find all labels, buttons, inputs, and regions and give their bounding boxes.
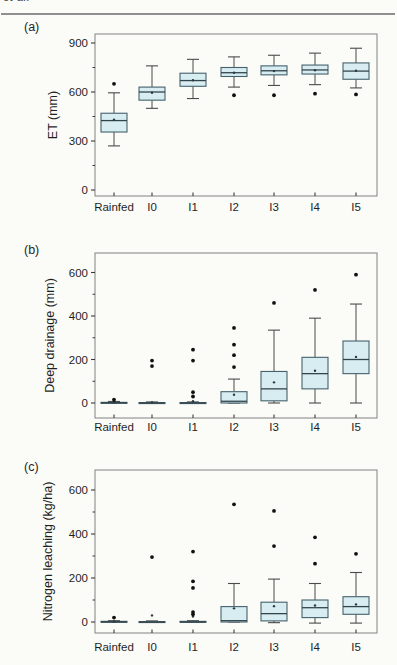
mean-marker [151,614,153,616]
y-tick-label: 400 [69,528,88,540]
mean-marker [192,79,194,81]
x-category-label: I2 [229,201,239,213]
mean-marker [192,400,194,402]
mean-marker [233,607,235,609]
outlier-point [272,544,276,548]
x-category-label: I4 [310,421,320,433]
outlier-point [313,288,317,292]
x-category-label: I1 [188,641,198,653]
outlier-point [191,579,195,583]
x-category-label: I5 [351,641,361,653]
outlier-point [232,353,236,357]
outlier-point [150,359,154,363]
figure-page: et al. 0300600900RainfedI0I1I2I3I4I5(a)E… [0,0,397,665]
box-b-I1 [180,348,206,404]
y-axis-title-c: Nitrogen leaching (kg/ha) [41,482,55,622]
y-tick-label: 600 [69,267,88,279]
x-category-label: I1 [188,201,198,213]
outlier-point [354,552,358,556]
box-b-I5 [343,273,369,403]
x-category-label: I3 [269,421,279,433]
y-tick-label: 300 [69,135,88,147]
mean-marker [113,119,115,121]
box-a-I0 [139,66,165,108]
iqr-box [261,371,287,400]
x-category-label: I2 [229,641,239,653]
x-category-label: I0 [147,641,157,653]
box-c-Rainfed [101,616,127,623]
x-category-label: I1 [188,421,198,433]
outlier-point [112,82,116,86]
outlier-point [191,395,195,399]
mean-marker [151,401,153,403]
box-b-I0 [139,359,165,404]
x-category-label: I3 [269,201,279,213]
box-c-I3 [261,509,287,623]
panel-a: 0300600900RainfedI0I1I2I3I4I5(a)ET (mm) [24,20,377,213]
x-category-label: I5 [351,201,361,213]
panel-label-a: (a) [24,20,39,34]
y-tick-label: 600 [69,484,88,496]
outlier-point [232,502,236,506]
box-c-I2 [221,502,247,622]
outlier-point [272,93,276,97]
box-a-Rainfed [101,82,127,146]
outlier-point [354,93,358,97]
mean-marker [233,72,235,74]
box-a-I5 [343,48,369,96]
y-tick-label: 900 [69,37,88,49]
mean-marker [314,69,316,71]
panel-b: 0200400600RainfedI0I1I2I3I4I5(b)Deep dra… [24,243,377,433]
x-category-label: Rainfed [94,641,134,653]
box-c-I0 [139,555,165,622]
box-b-I4 [302,288,328,403]
plot-frame [95,34,377,196]
mean-marker [355,356,357,358]
outlier-point [313,92,317,96]
outlier-point [191,586,195,590]
box-a-I1 [180,59,206,98]
outlier-point [313,562,317,566]
outlier-point [191,390,195,394]
outlier-point [150,555,154,559]
x-category-label: I0 [147,201,157,213]
outlier-point [191,610,195,614]
boxplot-figure-canvas: 0300600900RainfedI0I1I2I3I4I5(a)ET (mm)0… [0,0,397,665]
outlier-point [232,326,236,330]
mean-marker [355,70,357,72]
y-tick-label: 0 [82,616,88,628]
outlier-point [354,273,358,277]
outlier-point [112,616,116,620]
box-b-I2 [221,326,247,403]
x-category-label: Rainfed [94,201,134,213]
y-axis-title-a: ET (mm) [46,91,60,139]
outlier-point [232,93,236,97]
iqr-box [101,113,127,132]
y-tick-label: 200 [69,572,88,584]
box-c-I1 [180,550,206,623]
box-a-I4 [302,53,328,95]
x-category-label: Rainfed [94,421,134,433]
mean-marker [273,70,275,72]
outlier-point [232,365,236,369]
mean-marker [314,370,316,372]
x-category-label: I2 [229,421,239,433]
panel-c: 0200400600RainfedI0I1I2I3I4I5(c)Nitrogen… [24,460,377,653]
outlier-point [191,550,195,554]
y-axis-title-b: Deep drainage (mm) [43,278,57,393]
outlier-point [191,359,195,363]
box-a-I2 [221,57,247,97]
y-tick-label: 400 [69,310,88,322]
mean-marker [273,381,275,383]
panel-label-b: (b) [24,243,39,257]
y-tick-label: 0 [82,397,88,409]
outlier-point [272,301,276,305]
iqr-box [302,600,328,618]
outlier-point [232,343,236,347]
box-c-I4 [302,535,328,623]
box-b-Rainfed [101,398,127,404]
mean-marker [273,605,275,607]
outlier-point [272,509,276,513]
y-tick-label: 600 [69,86,88,98]
x-category-label: I4 [310,201,320,213]
